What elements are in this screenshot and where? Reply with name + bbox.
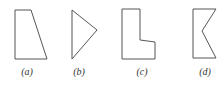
shape-c-l-shape	[122, 9, 155, 59]
label-b: (b)	[73, 66, 85, 77]
shape-b-triangle	[72, 10, 97, 59]
figure-canvas	[0, 0, 224, 86]
shape-d-notched-pentagon	[193, 9, 216, 58]
label-c: (c)	[136, 66, 147, 77]
shape-a-trapezoid	[15, 10, 47, 59]
label-a: (a)	[21, 66, 33, 77]
label-d: (d)	[199, 66, 211, 77]
